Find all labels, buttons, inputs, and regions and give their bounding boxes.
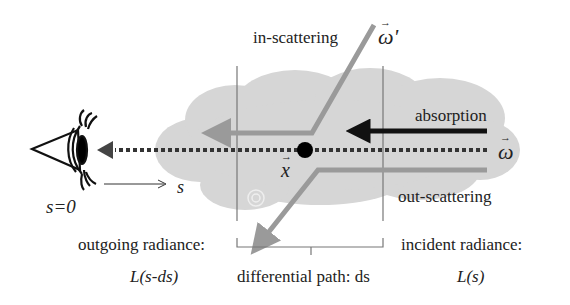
absorption-label: absorption [415,107,487,124]
outgoing-radiance-value: L(s-ds) [130,268,178,285]
vector-arrow-icon: → [281,151,292,162]
incident-radiance-value: L(s) [457,268,484,285]
eye-icon [32,110,97,190]
in-scattering-label: in-scattering [253,29,338,46]
incident-radiance-label: incident radiance: [401,236,522,253]
omega-symbol: ω → [498,141,514,163]
x-point-symbol: x → [281,160,290,180]
vector-arrow-icon: → [500,132,511,143]
ray-arrowhead [97,141,113,159]
outgoing-radiance-label: outgoing radiance: [78,236,205,253]
s-axis-label: s [177,178,184,196]
point-x-dot [297,142,313,158]
vector-arrow-icon: → [380,17,391,28]
omega-prime-symbol: ω' → [378,26,398,48]
radiative-transfer-diagram: in-scattering ω' → absorption ω → x → s … [0,0,570,305]
out-scattering-label: out-scattering [398,188,491,205]
s-origin-label: s=0 [46,197,76,216]
differential-path-label: differential path: ds [237,268,370,285]
